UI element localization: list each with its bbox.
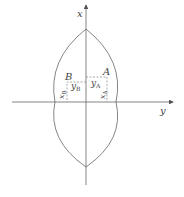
x-axis-label: x bbox=[77, 8, 83, 19]
x-a-label: xA bbox=[98, 89, 108, 99]
lens-diagram: x y A B yA yB xA xB bbox=[0, 0, 184, 197]
y-axis-label: y bbox=[159, 105, 166, 116]
point-a-label: A bbox=[102, 66, 110, 77]
y-a-label: yA bbox=[90, 78, 101, 89]
x-b-label: xB bbox=[57, 90, 67, 99]
y-b-label: yB bbox=[70, 81, 81, 92]
